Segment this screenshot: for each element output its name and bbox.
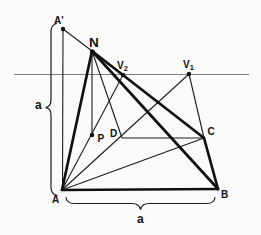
edge-N-B — [92, 51, 218, 189]
label-V2-subscript: 2 — [124, 64, 128, 73]
pyramid-perspective-figure: A' N V2 V1 P D C A B a a — [0, 0, 261, 235]
construction-A-to-V1-through-D — [62, 74, 189, 190]
label-B: B — [221, 189, 228, 200]
label-dimension-a-bottom: a — [137, 212, 144, 226]
point-A-prime-dot — [61, 27, 65, 31]
point-V2-dot — [121, 73, 125, 77]
label-P: P — [98, 133, 105, 144]
diagonal-A-C — [62, 138, 204, 190]
point-P-dot — [90, 133, 94, 137]
label-V1: V1 — [183, 59, 194, 72]
edge-Aprime-N — [63, 29, 92, 51]
edge-A-Aprime-vertical — [63, 29, 64, 190]
point-V1-dot — [187, 72, 191, 76]
label-N-apex: N — [89, 35, 99, 50]
dimension-brace-left — [46, 24, 58, 196]
point-N-dot — [90, 50, 95, 55]
label-A: A — [52, 194, 59, 205]
geometry-diagram-canvas: A' N V2 V1 P D C A B a a — [0, 0, 261, 235]
label-D: D — [110, 128, 117, 139]
label-A-prime: A' — [54, 15, 64, 26]
label-C: C — [208, 126, 215, 137]
dimension-brace-bottom — [66, 198, 215, 210]
label-dimension-a-left: a — [35, 98, 42, 112]
edge-A-B-base — [62, 189, 218, 190]
edge-A-N — [62, 51, 92, 190]
label-V1-subscript: 1 — [190, 63, 194, 72]
